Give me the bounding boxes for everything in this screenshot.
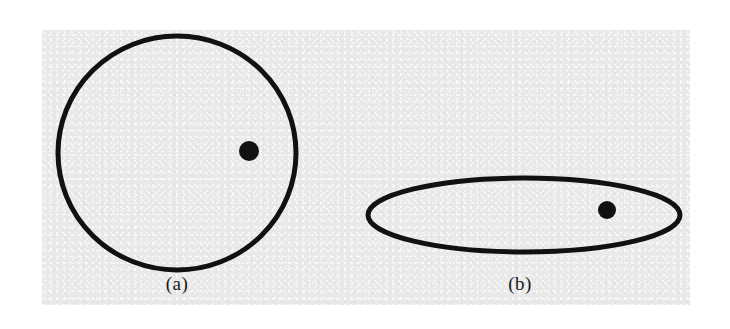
panel-a-circle-outline [58, 36, 296, 270]
panel-b-filled-dot [598, 201, 616, 219]
panel-b-caption: (b) [480, 274, 560, 293]
figure-root: (a) (b) [0, 0, 730, 329]
figure-drawing-layer [0, 0, 730, 329]
panel-a-group [58, 36, 296, 270]
panel-b-ellipse-outline [368, 178, 680, 252]
panel-a-caption: (a) [137, 274, 217, 293]
panel-a-filled-dot [239, 141, 259, 161]
panel-b-group [368, 178, 680, 252]
